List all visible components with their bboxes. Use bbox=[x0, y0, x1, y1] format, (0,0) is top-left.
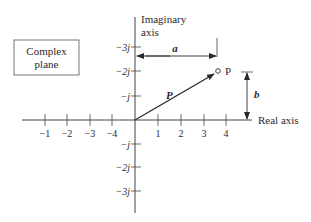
tick-label: −2 bbox=[62, 128, 73, 139]
vector-p-arrow bbox=[135, 74, 214, 120]
tick-label: 3 bbox=[202, 128, 207, 139]
tick-label: −2j bbox=[115, 66, 130, 77]
tick-label: −4 bbox=[107, 128, 118, 139]
box-label-line1: Complex bbox=[26, 45, 67, 57]
tick-label: −2j bbox=[115, 162, 130, 173]
tick-label: −j bbox=[120, 139, 130, 150]
b-dimension: b bbox=[241, 72, 260, 119]
a-label: a bbox=[172, 42, 178, 54]
a-dimension: a bbox=[137, 38, 217, 57]
imaginary-axis-label-line1: Imaginary bbox=[141, 13, 187, 25]
b-label: b bbox=[254, 88, 260, 100]
tick-label: −3 bbox=[85, 128, 96, 139]
tick-label: −3j bbox=[115, 186, 130, 197]
tick-label: 1 bbox=[156, 128, 161, 139]
tick-label: −j bbox=[120, 91, 130, 102]
tick-label: 4 bbox=[224, 128, 229, 139]
real-axis-label: Real axis bbox=[258, 114, 299, 126]
complex-plane-diagram: Complex plane Imaginary axis Real axis 1… bbox=[0, 0, 311, 222]
point-p-marker bbox=[216, 69, 221, 74]
real-ticks-negative: −1 −2 −3 −4 bbox=[40, 114, 118, 139]
complex-plane-box: Complex plane bbox=[14, 40, 79, 75]
vector-p-label: P bbox=[166, 89, 173, 101]
imag-ticks-upper: −3j −2j −j bbox=[115, 42, 141, 102]
box-label-line2: plane bbox=[35, 58, 59, 70]
point-p-label: P bbox=[225, 65, 231, 77]
imaginary-axis-label-line2: axis bbox=[141, 26, 159, 38]
tick-label: −3j bbox=[115, 42, 130, 53]
tick-label: −1 bbox=[40, 128, 51, 139]
tick-label: 2 bbox=[179, 128, 184, 139]
imag-ticks-lower: −j −2j −3j bbox=[115, 139, 141, 197]
real-ticks-positive: 1 2 3 4 bbox=[156, 114, 229, 139]
